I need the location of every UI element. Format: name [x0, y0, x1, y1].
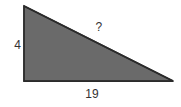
vertical-leg-length-label: 4: [9, 39, 21, 52]
hypotenuse-unknown-label: ?: [93, 21, 105, 34]
figure-root: 4 ? 19: [0, 0, 181, 107]
base-leg-length-label: 19: [80, 88, 104, 101]
